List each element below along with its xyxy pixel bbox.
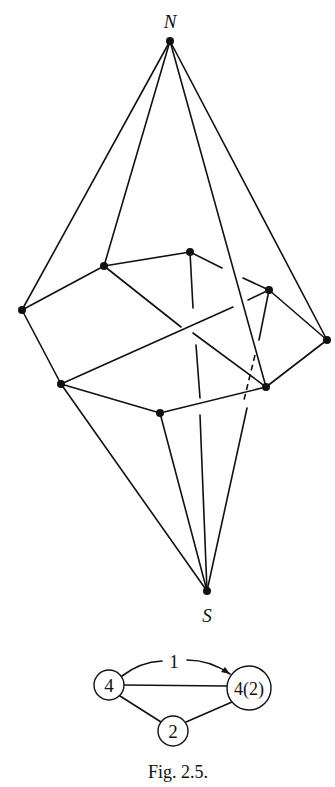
vertex-F [57, 380, 65, 388]
vertex-A [18, 306, 26, 314]
graph-arc-a [122, 661, 162, 676]
edge-E-H [266, 340, 327, 387]
south-label: S [202, 605, 212, 626]
edge-G-H [160, 387, 266, 413]
edge-C-S-a [190, 252, 193, 308]
graph-node-left-label: 4 [104, 675, 114, 696]
vertex-G [156, 409, 164, 417]
edge-B-C [104, 252, 190, 266]
edge-F-G [61, 384, 160, 413]
vertex-N [166, 37, 174, 45]
vertex-E [323, 336, 331, 344]
arrowhead-icon [221, 667, 230, 674]
polyhedron-diagram: N S [18, 11, 331, 626]
edge-B-H-b [193, 333, 266, 387]
edge-G-S [160, 413, 207, 591]
edge-D-E [269, 290, 327, 340]
edge-A-F [22, 310, 61, 384]
graph-edge-left-right [124, 685, 227, 686]
edge-B-H-a [104, 266, 181, 327]
edge-D-down [259, 290, 269, 340]
figure-canvas: N S 1 4 4(2) 2 Fig. 2.5. [0, 0, 335, 787]
vertex-D [265, 286, 273, 294]
edge-C-D-b [243, 278, 269, 290]
edge-N-B [104, 41, 170, 266]
graph-diagram: 1 4 4(2) 2 [94, 651, 271, 746]
edge-D-S [207, 408, 247, 591]
north-label: N [163, 11, 178, 32]
edge-C-S-b [196, 345, 200, 398]
graph-node-right-label: 4(2) [234, 679, 264, 700]
edge-N-E [170, 41, 327, 340]
graph-edge-left-bottom [120, 696, 161, 722]
vertex-H [262, 383, 270, 391]
vertex-C [186, 248, 194, 256]
arc-label: 1 [169, 651, 179, 672]
edge-C-D-a [190, 252, 222, 268]
edge-F-D-a [61, 307, 233, 384]
edge-N-H [170, 41, 266, 387]
vertex-B [100, 262, 108, 270]
vertex-S [203, 587, 211, 595]
graph-edge-bottom-right [186, 702, 232, 722]
graph-node-bottom-label: 2 [168, 721, 178, 742]
edge-F-S [61, 384, 207, 591]
edge-C-S-c [200, 415, 207, 591]
figure-caption: Fig. 2.5. [148, 762, 208, 782]
